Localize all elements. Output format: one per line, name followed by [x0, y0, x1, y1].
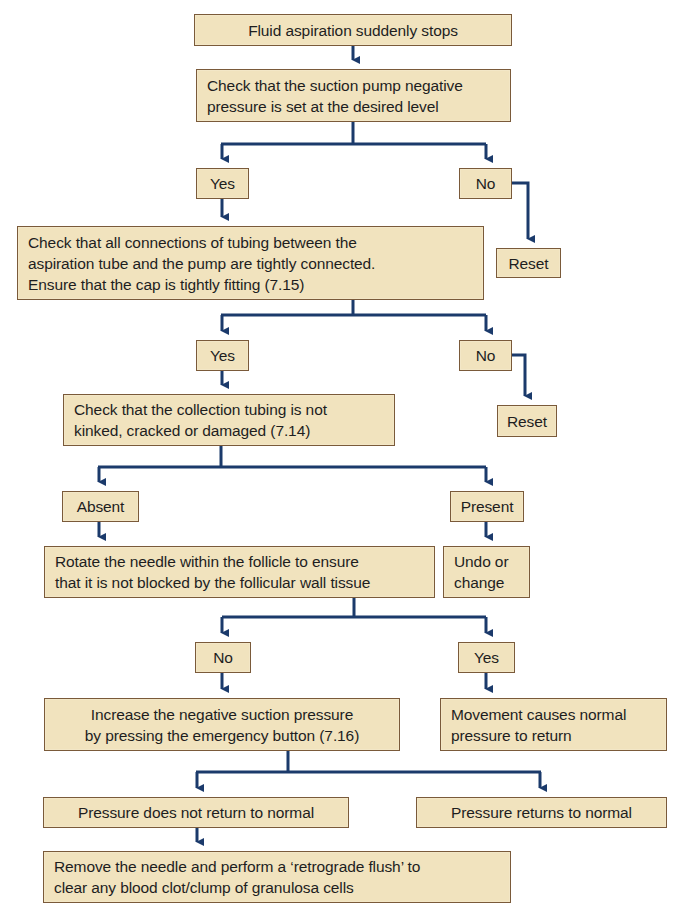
pressure-not-normal-box: Pressure does not return to normal	[43, 797, 349, 828]
remove-needle-box: Remove the needle and perform a ‘retrogr…	[43, 851, 511, 903]
branch-line-pump	[221, 121, 486, 144]
pressure-normal-text: Pressure returns to normal	[451, 802, 632, 823]
start-text: Fluid aspiration suddenly stops	[248, 20, 458, 41]
pump-reset-text: Reset	[509, 253, 549, 274]
branch-line-rotate	[222, 597, 486, 617]
connections-reset-box: Reset	[497, 405, 557, 437]
flowchart-connectors	[0, 0, 689, 923]
arrow-connections-no-to-reset	[511, 355, 525, 396]
tubing-present-box: Present	[450, 491, 524, 522]
movement-normal-text: Movement causes normal pressure to retur…	[451, 704, 626, 746]
check-connections-box: Check that all connections of tubing bet…	[17, 226, 484, 300]
branch-line-increase	[196, 750, 541, 772]
check-connections-text: Check that all connections of tubing bet…	[28, 232, 375, 295]
branch-line-connections	[221, 299, 486, 315]
start-box: Fluid aspiration suddenly stops	[194, 14, 512, 46]
movement-normal-box: Movement causes normal pressure to retur…	[440, 698, 667, 751]
check-tubing-box: Check that the collection tubing is not …	[63, 394, 395, 446]
connections-no-box: No	[459, 340, 512, 371]
connections-no-text: No	[476, 345, 496, 366]
undo-change-text: Undo or change	[454, 551, 508, 593]
rotate-no-box: No	[195, 642, 251, 673]
check-tubing-text: Check that the collection tubing is not …	[74, 399, 327, 441]
check-pump-box: Check that the suction pump negative pre…	[196, 69, 511, 122]
increase-pressure-text: Increase the negative suction pressure b…	[85, 704, 359, 746]
rotate-no-text: No	[213, 647, 233, 668]
rotate-yes-text: Yes	[474, 647, 499, 668]
check-pump-text: Check that the suction pump negative pre…	[207, 75, 463, 117]
pump-no-text: No	[476, 173, 496, 194]
connections-yes-box: Yes	[196, 340, 249, 371]
rotate-needle-text: Rotate the needle within the follicle to…	[55, 551, 370, 593]
pump-reset-box: Reset	[496, 248, 561, 278]
connections-yes-text: Yes	[210, 345, 235, 366]
pressure-normal-box: Pressure returns to normal	[416, 797, 667, 828]
connections-reset-text: Reset	[507, 411, 547, 432]
tubing-absent-text: Absent	[77, 496, 125, 517]
pressure-not-normal-text: Pressure does not return to normal	[78, 802, 314, 823]
undo-change-box: Undo or change	[443, 546, 530, 598]
arrow-pump-no-to-reset	[511, 183, 528, 239]
pump-yes-text: Yes	[210, 173, 235, 194]
increase-pressure-box: Increase the negative suction pressure b…	[44, 698, 400, 751]
rotate-needle-box: Rotate the needle within the follicle to…	[44, 546, 435, 598]
rotate-yes-box: Yes	[458, 642, 515, 673]
pump-yes-box: Yes	[196, 168, 249, 199]
branch-line-tubing	[98, 445, 486, 467]
tubing-absent-box: Absent	[62, 491, 139, 522]
pump-no-box: No	[459, 168, 512, 199]
tubing-present-text: Present	[461, 496, 514, 517]
remove-needle-text: Remove the needle and perform a ‘retrogr…	[54, 856, 420, 898]
